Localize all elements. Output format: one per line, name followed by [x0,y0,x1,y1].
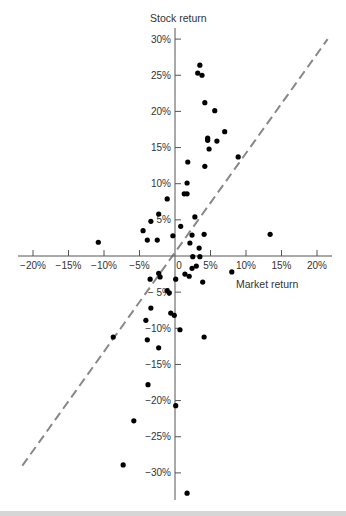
data-point [205,138,210,143]
y-tick-label: 20% [151,106,171,117]
data-point [156,211,161,216]
data-point [194,264,199,269]
data-point [187,274,192,279]
data-point [190,254,195,259]
data-point [155,237,160,242]
data-point [140,228,145,233]
data-point [145,337,150,342]
y-tick-label: 15% [151,142,171,153]
y-tick-label: 10% [151,178,171,189]
data-point [268,232,273,237]
data-point [236,154,241,159]
data-point [202,100,207,105]
data-point [96,240,101,245]
data-point [172,313,177,318]
data-point [187,240,192,245]
y-tick-label: −25% [145,431,171,442]
x-tick-label: 15% [271,260,291,271]
x-tick-label: −15% [56,260,82,271]
data-point [148,277,153,282]
data-point [156,345,161,350]
data-point [148,305,153,310]
data-point [177,327,182,332]
data-point [184,191,189,196]
x-tick-label: −20% [20,260,46,271]
data-point [202,232,207,237]
data-point [200,279,205,284]
data-point [202,164,207,169]
data-point [192,214,197,219]
data-point [206,146,211,151]
data-point [178,224,183,229]
y-tick-label: 30% [151,34,171,45]
data-point [184,180,189,185]
y-tick-label: −10% [145,323,171,334]
data-point [111,334,116,339]
data-point [212,108,217,113]
data-point [197,63,202,68]
data-point [145,237,150,242]
y-tick-label: −15% [145,359,171,370]
data-point [202,334,207,339]
x-axis-title: Market return [236,278,299,290]
data-point [184,491,189,496]
data-point [189,232,194,237]
data-point [199,73,204,78]
data-point [121,462,126,467]
data-point [173,403,178,408]
x-tick-label: 20% [307,260,327,271]
data-point [148,219,153,224]
bottom-border-band [0,511,346,516]
data-point [222,129,227,134]
data-point [185,159,190,164]
x-tick-label: 0 [176,260,182,271]
data-point [131,418,136,423]
y-axis-title: Stock return [150,12,207,24]
y-tick-label: −20% [145,395,171,406]
data-point [170,233,175,238]
x-tick-label: −5% [129,260,149,271]
x-tick-label: 10% [236,260,256,271]
x-tick-label: −10% [91,260,117,271]
data-point [143,318,148,323]
data-point [145,382,150,387]
data-point [165,196,170,201]
y-tick-label: −30% [145,467,171,478]
x-tick-label: 5% [203,260,218,271]
data-point [197,245,202,250]
y-tick-label: 25% [151,70,171,81]
scatter-chart: −20%−15%−10%−5%05%10%15%20%30%25%20%15%1… [0,0,346,516]
data-point [229,269,234,274]
data-point [157,274,162,279]
data-point [197,254,202,259]
data-point [214,138,219,143]
data-point [167,290,172,295]
data-point [173,277,178,282]
